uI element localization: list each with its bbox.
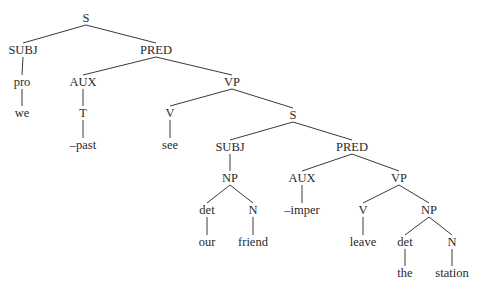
tree-edge [170,89,232,106]
tree-node-vp1: VP [224,76,240,89]
tree-edge [86,25,156,43]
tree-node-leave: leave [350,236,376,249]
tree-node-det2: det [397,236,412,249]
tree-node-vp2: VP [391,172,407,185]
tree-node-det1: det [199,204,214,217]
tree-node-station: station [435,267,468,280]
tree-node-np2: NP [421,204,437,217]
tree-edge [22,57,23,75]
tree-node-our: our [199,236,216,249]
tree-edge [293,122,352,140]
tree-node-see: see [162,139,178,152]
tree-node-t: T [79,107,87,120]
tree-node-v1: V [165,107,174,120]
tree-edge [352,154,399,171]
tree-edge [230,185,253,203]
tree-edge [363,185,399,203]
tree-edge [399,185,429,203]
tree-edge [23,25,86,43]
tree-node-pred2: PRED [336,141,368,154]
tree-node-we: we [15,107,30,120]
tree-node-pro: pro [14,76,31,89]
tree-edge [83,57,156,75]
tree-edge [302,154,352,171]
tree-node-n2: N [447,236,456,249]
tree-node-imper: –imper [284,204,319,217]
tree-node-s2: S [290,109,297,122]
tree-node-subj2: SUBJ [215,141,244,154]
tree-edge [232,89,293,108]
tree-node-the: the [397,267,412,280]
tree-node-aux1: AUX [69,76,96,89]
tree-node-subj1: SUBJ [8,44,37,57]
tree-edge [405,217,429,235]
tree-node-np1: NP [222,172,238,185]
tree-node-n1: N [248,204,257,217]
tree-node-s1: S [83,12,90,25]
tree-node-pred1: PRED [140,44,172,57]
tree-node-aux2: AUX [288,172,315,185]
tree-node-friend: friend [238,236,268,249]
tree-node-past: –past [70,139,96,152]
tree-node-v2: V [358,204,367,217]
tree-edge [207,185,230,203]
syntax-tree-diagram: SSUBJPREDproweAUXT–pastVPVseeSSUBJNPdeto… [0,0,477,289]
tree-edge [429,217,452,235]
tree-edge [156,57,232,75]
tree-edge [230,122,293,140]
